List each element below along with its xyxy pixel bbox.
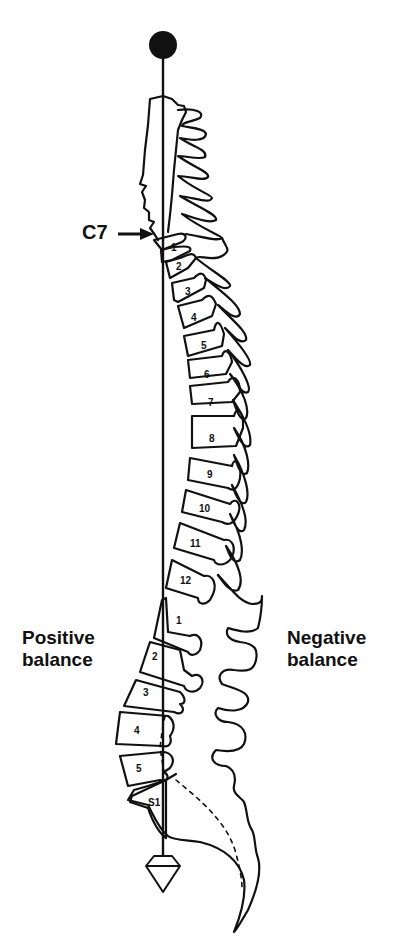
svg-text:2: 2 bbox=[176, 261, 182, 272]
svg-text:10: 10 bbox=[199, 503, 211, 514]
svg-text:1: 1 bbox=[176, 615, 182, 626]
svg-text:8: 8 bbox=[209, 433, 215, 444]
vertebra-l3 bbox=[124, 680, 185, 713]
svg-text:2: 2 bbox=[152, 651, 158, 662]
c7-arrow-icon bbox=[118, 228, 154, 240]
vertebra-t11 bbox=[174, 523, 234, 565]
positive-label-line2: balance bbox=[22, 649, 95, 671]
svg-text:S1: S1 bbox=[148, 797, 161, 808]
vertebra-t10 bbox=[182, 490, 239, 524]
svg-text:3: 3 bbox=[143, 687, 149, 698]
svg-text:4: 4 bbox=[191, 312, 197, 323]
svg-text:5: 5 bbox=[201, 340, 207, 351]
negative-label-line1: Negative bbox=[287, 627, 366, 649]
svg-text:1: 1 bbox=[171, 242, 177, 253]
svg-text:9: 9 bbox=[207, 469, 213, 480]
vertebra-t4 bbox=[178, 296, 216, 328]
svg-text:6: 6 bbox=[204, 369, 210, 380]
svg-text:5: 5 bbox=[136, 763, 142, 774]
vertebra-l1 bbox=[154, 598, 201, 655]
plumb-bob-icon bbox=[146, 856, 180, 892]
vertebra-t6 bbox=[188, 351, 232, 378]
positive-balance-label: Positive balance bbox=[22, 627, 95, 671]
svg-text:7: 7 bbox=[208, 397, 214, 408]
negative-label-line2: balance bbox=[287, 649, 366, 671]
positive-label-line1: Positive bbox=[22, 627, 95, 649]
vertebra-t7 bbox=[190, 378, 240, 404]
cervical-spinous-processes bbox=[178, 109, 222, 239]
c7-label: C7 bbox=[82, 221, 108, 243]
vertebra-number-labels: 1 2 3 4 5 6 7 8 9 10 11 12 1 2 3 4 5 S1 bbox=[134, 242, 215, 808]
spine-diagram: 1 2 3 4 5 6 7 8 9 10 11 12 1 2 3 4 5 S1 bbox=[0, 0, 403, 948]
svg-text:3: 3 bbox=[185, 286, 191, 297]
svg-text:11: 11 bbox=[190, 538, 201, 549]
negative-balance-label: Negative balance bbox=[287, 627, 366, 671]
svg-text:12: 12 bbox=[180, 575, 192, 586]
svg-text:4: 4 bbox=[134, 725, 140, 736]
lumbar-vertebral-bodies bbox=[116, 598, 202, 786]
